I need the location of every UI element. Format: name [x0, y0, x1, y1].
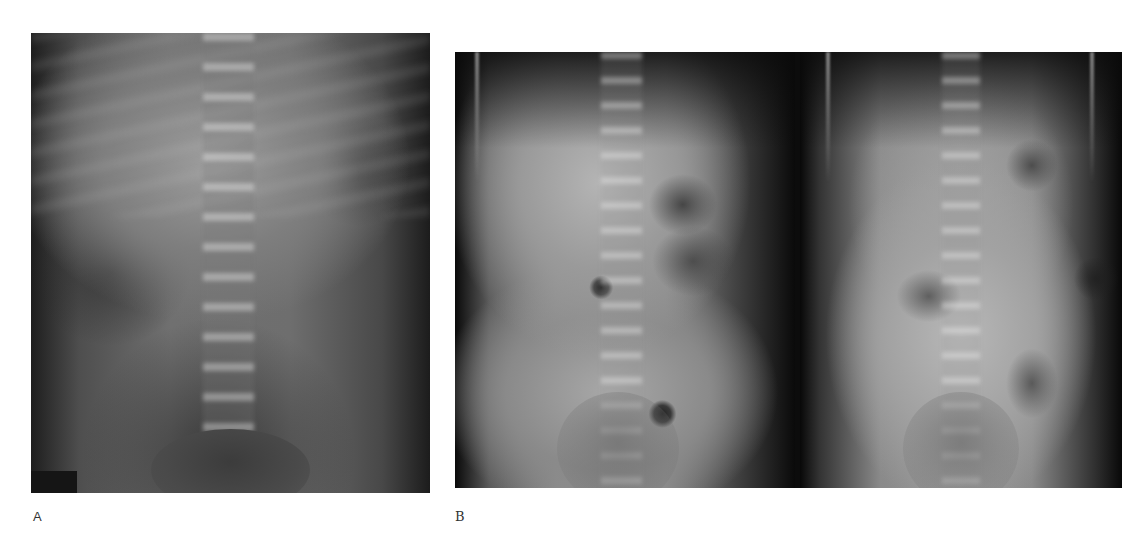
panel-label-b: B — [455, 509, 465, 524]
spine — [203, 33, 255, 493]
panel-label-a: A — [33, 509, 42, 524]
radiograph-panel-b — [455, 52, 1122, 488]
rib-edge — [826, 52, 830, 183]
rib-edge — [1090, 52, 1094, 183]
radiograph-b-right — [800, 52, 1122, 488]
radiograph-panel-a — [31, 33, 430, 493]
rib-edge — [475, 52, 479, 183]
film-marker — [31, 471, 77, 493]
pelvis — [903, 392, 1019, 488]
pelvis — [557, 392, 679, 488]
radiograph-b-left — [455, 52, 795, 488]
pelvis — [151, 429, 311, 493]
